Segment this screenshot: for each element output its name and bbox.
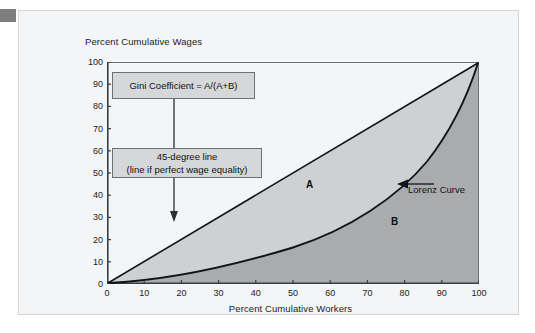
corner-tab — [0, 9, 16, 22]
y-tick-label: 60 — [81, 146, 103, 155]
x-tick-label: 100 — [466, 289, 492, 298]
x-tick-label: 60 — [317, 289, 343, 298]
figure-card: Percent Cumulative Wages — [18, 10, 519, 315]
gini-coefficient-text: Gini Coefficient = A/(A+B) — [129, 79, 237, 92]
y-axis-title: Percent Cumulative Wages — [85, 36, 202, 47]
y-tick-label: 100 — [81, 58, 103, 67]
gini-coefficient-callout: Gini Coefficient = A/(A+B) — [112, 72, 255, 99]
x-tick-label: 40 — [243, 289, 269, 298]
x-tick-label: 30 — [206, 289, 232, 298]
y-tick-label: 90 — [81, 80, 103, 89]
equality-line-callout-line2: (line if perfect wage equality) — [127, 163, 248, 176]
region-label-b: B — [391, 216, 398, 227]
x-axis-title-text: Percent Cumulative Workers — [229, 303, 352, 314]
equality-line-callout-line1: 45-degree line — [157, 150, 218, 163]
region-label-a: A — [306, 179, 313, 190]
y-tick-label: 10 — [81, 257, 103, 266]
lorenz-curve-annotation: Lorenz Curve — [408, 184, 465, 195]
x-tick-label: 0 — [94, 289, 120, 298]
y-axis-ticks: 0102030405060708090100 — [79, 62, 103, 284]
y-tick-label: 40 — [81, 191, 103, 200]
y-tick-label: 80 — [81, 102, 103, 111]
y-tick-label: 20 — [81, 235, 103, 244]
x-tick-label: 70 — [354, 289, 380, 298]
x-tick-label: 50 — [280, 289, 306, 298]
x-axis-ticks: 0102030405060708090100 — [107, 289, 479, 303]
y-tick-label: 30 — [81, 213, 103, 222]
y-tick-label: 0 — [81, 280, 103, 289]
y-tick-label: 50 — [81, 169, 103, 178]
x-tick-label: 80 — [392, 289, 418, 298]
x-axis-title: Percent Cumulative Workers — [19, 303, 518, 314]
y-tick-label: 70 — [81, 124, 103, 133]
x-tick-label: 10 — [131, 289, 157, 298]
x-tick-label: 20 — [168, 289, 194, 298]
equality-line-callout: 45-degree line (line if perfect wage equ… — [112, 148, 262, 178]
x-tick-label: 90 — [429, 289, 455, 298]
